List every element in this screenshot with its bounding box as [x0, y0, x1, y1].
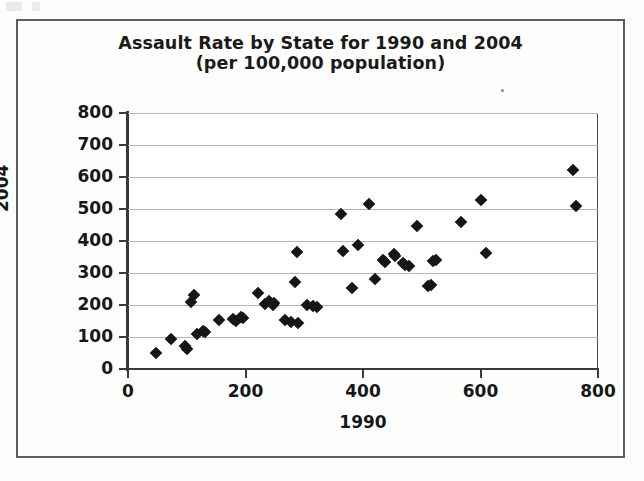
x-axis-title: 1990 — [283, 412, 443, 432]
y-axis-tick-label: 100 — [55, 326, 113, 346]
x-axis-tick — [362, 369, 364, 378]
y-axis-tick — [119, 176, 128, 178]
x-axis-tick — [127, 369, 129, 378]
gridline — [128, 241, 598, 242]
x-axis-tick-label: 400 — [333, 381, 393, 401]
chart-title-line-2: (per 100,000 population) — [16, 53, 625, 73]
x-axis-tick-label: 0 — [98, 381, 158, 401]
gridline — [128, 209, 598, 210]
x-axis-tick — [245, 369, 247, 378]
x-axis-tick-label: 800 — [568, 381, 628, 401]
y-axis-tick-label: 200 — [55, 294, 113, 314]
scan-artifact — [6, 2, 52, 11]
y-axis-title: 2004 — [0, 165, 12, 212]
chart-title-line-1: Assault Rate by State for 1990 and 2004 — [16, 33, 625, 53]
x-axis-tick-label: 600 — [451, 381, 511, 401]
scanned-page-background: Assault Rate by State for 1990 and 2004 … — [0, 0, 644, 481]
gridline — [128, 113, 598, 114]
y-axis-tick — [119, 112, 128, 114]
y-axis-tick-label: 500 — [55, 198, 113, 218]
y-axis-tick — [119, 208, 128, 210]
y-axis-tick-label: 300 — [55, 262, 113, 282]
y-axis-tick — [119, 336, 128, 338]
gridline — [128, 145, 598, 146]
chart-title: Assault Rate by State for 1990 and 2004 … — [16, 33, 625, 74]
y-axis-tick — [119, 272, 128, 274]
y-axis-tick-label: 600 — [55, 166, 113, 186]
y-axis-tick — [119, 144, 128, 146]
y-axis-tick-label: 400 — [55, 230, 113, 250]
y-axis-tick — [119, 240, 128, 242]
speck-artifact — [501, 89, 504, 92]
x-axis-tick — [480, 369, 482, 378]
x-axis-tick-label: 200 — [216, 381, 276, 401]
gridline — [128, 177, 598, 178]
gridline — [128, 273, 598, 274]
y-axis-tick-label: 700 — [55, 134, 113, 154]
y-axis-tick — [119, 304, 128, 306]
y-axis-tick-label: 800 — [55, 102, 113, 122]
y-axis-tick-label: 0 — [55, 358, 113, 378]
x-axis-tick — [597, 369, 599, 378]
gridline — [128, 305, 598, 306]
